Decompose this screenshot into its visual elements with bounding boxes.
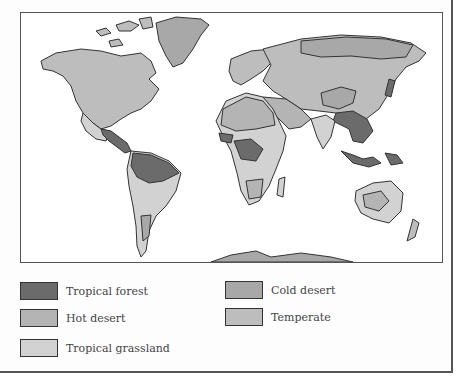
cold-desert-swatch [225, 281, 263, 299]
legend-label: Tropical grassland [66, 342, 170, 355]
india [311, 115, 335, 149]
tropical-grassland-swatch [20, 339, 58, 357]
legend-item-cold-desert: Cold desert [225, 281, 335, 299]
legend-item-hot-desert: Hot desert [20, 309, 126, 327]
antarctica [211, 251, 353, 262]
temperate-swatch [225, 308, 263, 326]
arctic-islands [96, 17, 153, 47]
figure-frame: Tropical forest Hot desert Tropical gras… [0, 0, 453, 373]
greenland [156, 17, 209, 67]
west-africa-forest [219, 133, 233, 143]
indonesia [341, 151, 403, 167]
world-map [20, 12, 443, 263]
kalahari [246, 179, 263, 199]
legend-item-tropical-forest: Tropical forest [20, 282, 148, 300]
legend-label: Hot desert [66, 312, 126, 325]
madagascar [277, 177, 285, 197]
legend-label: Tropical forest [66, 285, 148, 298]
hot-desert-swatch [20, 309, 58, 327]
legend-item-temperate: Temperate [225, 308, 331, 326]
map-legend: Tropical forest Hot desert Tropical gras… [0, 262, 451, 371]
tropical-forest-swatch [20, 282, 58, 300]
legend-label: Cold desert [271, 284, 335, 297]
legend-item-tropical-grassland: Tropical grassland [20, 339, 170, 357]
north-america [41, 49, 159, 129]
new-zealand [407, 219, 419, 241]
patagonia [141, 215, 151, 241]
world-map-svg [21, 13, 442, 262]
legend-label: Temperate [271, 311, 331, 324]
